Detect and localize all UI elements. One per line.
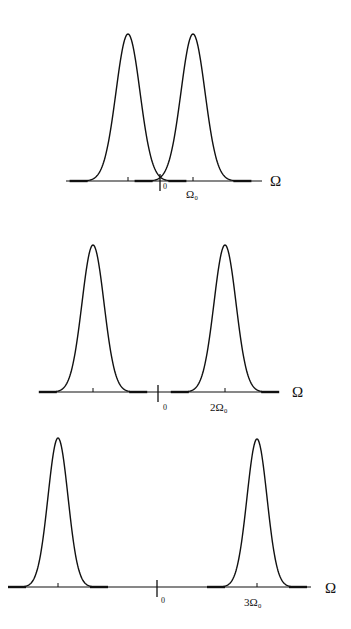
peak-curve	[143, 34, 244, 181]
panel1-zero-label: 0	[163, 182, 167, 191]
panel2-2omega0-label: 2Ω₀	[210, 401, 228, 413]
panel2-zero-label: 0	[163, 403, 167, 412]
peak-curve	[215, 439, 299, 587]
peak-curve	[16, 438, 100, 587]
panel1-axis-label: Ω	[270, 173, 281, 190]
peak-curve	[47, 245, 139, 392]
panel-1	[66, 34, 262, 191]
panel3-zero-label: 0	[161, 596, 165, 605]
panel3-3omega0-label: 3Ω₀	[244, 596, 262, 608]
panel-2	[39, 245, 279, 402]
panel3-axis-label: Ω	[325, 580, 336, 597]
panel1-omega0-label: Ω₀	[186, 188, 198, 200]
spectra-diagram	[0, 0, 351, 629]
peak-curve	[78, 34, 179, 181]
peak-curve	[179, 245, 271, 392]
panel-3	[8, 438, 311, 597]
panel2-axis-label: Ω	[292, 384, 303, 401]
